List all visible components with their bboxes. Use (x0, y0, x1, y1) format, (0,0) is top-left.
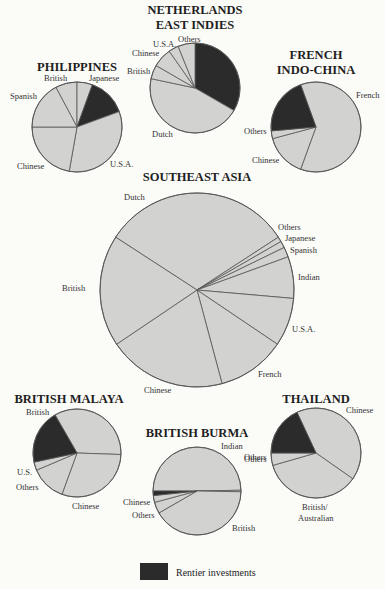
pie-title: PHILIPPINES (37, 60, 117, 74)
slice-label: Chinese (144, 385, 172, 395)
slice-label: Chinese (72, 501, 100, 511)
pie-thailand: THAILANDChineseOthersBritish/Australian (244, 392, 374, 523)
slice-label: Chinese (346, 405, 374, 415)
slice-label: British (127, 66, 151, 76)
slice-label: Others (16, 482, 39, 492)
pie-philippines: PHILIPPINESBritishJapaneseSpanishChinese… (10, 60, 133, 172)
pie-title: BRITISH MALAYA (14, 392, 123, 406)
pie-title: INDO-CHINA (277, 63, 355, 77)
pie-title: FRENCH (290, 48, 343, 62)
legend: Rentier investments (140, 563, 256, 580)
legend-swatch-rentier (140, 563, 168, 580)
slice-label: Others (244, 454, 267, 464)
slice-label: British (26, 407, 50, 417)
slice-label: Others (278, 222, 301, 232)
pie-title: THAILAND (282, 392, 349, 406)
slice-label: Spanish (290, 245, 318, 255)
pie-title: SOUTHEAST ASIA (143, 170, 252, 184)
slice-label: Chinese (132, 48, 160, 58)
slice-label: Chinese (123, 497, 151, 507)
slice-label: French (258, 369, 282, 379)
slice-label: Japanese (285, 233, 315, 243)
slice-label: Australian (298, 513, 334, 523)
pie-slice-indian (153, 447, 241, 491)
slice-label: Dutch (124, 192, 146, 202)
pie-british-burma: BRITISH BURMAIndianOthersChineseOthersBr… (123, 426, 267, 535)
slice-label: Others (178, 34, 201, 44)
pie-group: PHILIPPINESBritishJapaneseSpanishChinese… (10, 3, 380, 535)
slice-label: French (356, 90, 380, 100)
slice-label: Chinese (252, 155, 280, 165)
slice-label: Chinese (17, 161, 45, 171)
slice-label: Indian (221, 441, 243, 451)
slice-label: Japanese (89, 73, 119, 83)
pie-french-indo-china: FRENCHINDO-CHINAFrenchOthersChinese (244, 48, 380, 172)
slice-label: Dutch (152, 129, 174, 139)
slice-label: British (232, 523, 256, 533)
slice-label: Others (244, 126, 267, 136)
legend-label: Rentier investments (176, 567, 256, 578)
pie-title: NETHERLANDS (147, 3, 242, 17)
pie-netherlands-east-indies: NETHERLANDSEAST INDIESOthersU.S.A.Chines… (127, 3, 243, 139)
slice-label: British (44, 73, 68, 83)
slice-label: U.S.A. (292, 324, 315, 334)
slice-label: U.S.A. (110, 159, 133, 169)
pie-title: EAST INDIES (156, 18, 235, 32)
slice-label: Indian (298, 272, 320, 282)
slice-label: Others (132, 510, 155, 520)
slice-label: British/ (302, 502, 328, 512)
pie-charts-figure: PHILIPPINESBritishJapaneseSpanishChinese… (0, 0, 385, 589)
pie-title: BRITISH BURMA (146, 426, 248, 440)
slice-label: British (62, 283, 86, 293)
slice-label: U.S. (17, 467, 32, 477)
slice-label: Spanish (10, 91, 38, 101)
pie-british-malaya: BRITISH MALAYABritishU.S.OthersChinese (14, 392, 123, 511)
pie-southeast-asia: SOUTHEAST ASIADutchOthersJapaneseSpanish… (62, 170, 320, 395)
